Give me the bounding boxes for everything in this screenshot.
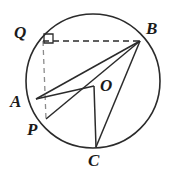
point-label-Q: Q: [14, 24, 26, 41]
segment-BA: [36, 41, 140, 99]
segment-OC: [94, 86, 96, 147]
point-label-O: O: [100, 77, 112, 94]
segment-BP: [46, 41, 140, 119]
point-label-B: B: [146, 20, 157, 37]
point-label-C: C: [88, 152, 99, 169]
point-label-P: P: [27, 121, 37, 138]
geometry-figure: Q B A O P C: [0, 0, 174, 176]
point-label-A: A: [10, 93, 21, 110]
segment-QP-dashed: [43, 41, 46, 119]
